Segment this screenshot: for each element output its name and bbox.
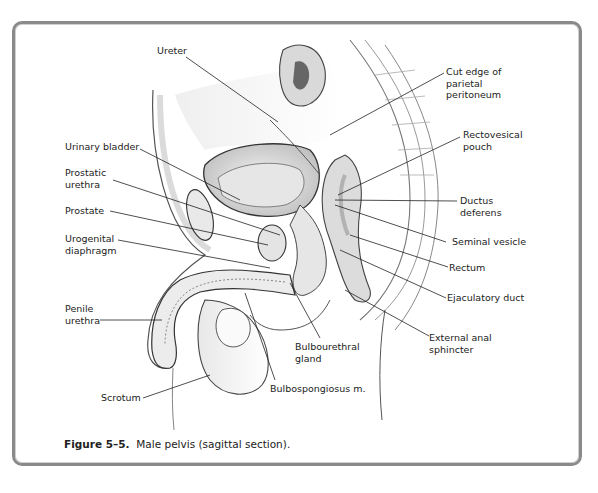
label-ductus-deferens: Ductus deferens bbox=[460, 195, 502, 218]
label-bulbourethral-gland: Bulbourethral gland bbox=[295, 341, 360, 364]
label-scrotum: Scrotum bbox=[101, 392, 141, 404]
figure-caption-text: Male pelvis (sagittal section). bbox=[136, 438, 290, 450]
label-penile-urethra: Penile urethra bbox=[65, 303, 100, 326]
label-cut-edge-peritoneum: Cut edge of parietal peritoneum bbox=[446, 66, 501, 101]
label-bulbospongiosus: Bulbospongiosus m. bbox=[270, 383, 366, 395]
label-seminal-vesicle: Seminal vesicle bbox=[452, 236, 526, 248]
figure-number: Figure 5–5. bbox=[64, 438, 130, 450]
label-prostatic-urethra: Prostatic urethra bbox=[65, 167, 106, 190]
label-ejaculatory-duct: Ejaculatory duct bbox=[447, 292, 524, 304]
label-ureter: Ureter bbox=[157, 45, 187, 57]
label-external-anal-sphincter: External anal sphincter bbox=[429, 332, 492, 355]
figure-caption: Figure 5–5. Male pelvis (sagittal sectio… bbox=[64, 438, 290, 450]
label-urogenital-diaphragm: Urogenital diaphragm bbox=[65, 233, 117, 256]
label-urinary-bladder: Urinary bladder bbox=[65, 141, 139, 153]
label-prostate: Prostate bbox=[65, 205, 104, 217]
label-rectovesical-pouch: Rectovesical pouch bbox=[463, 129, 523, 152]
label-rectum: Rectum bbox=[449, 262, 485, 274]
